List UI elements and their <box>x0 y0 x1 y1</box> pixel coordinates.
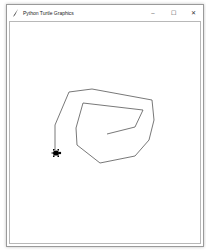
turtle-icon <box>52 149 62 157</box>
pen-path <box>55 89 154 163</box>
turtle-drawing <box>0 0 206 250</box>
